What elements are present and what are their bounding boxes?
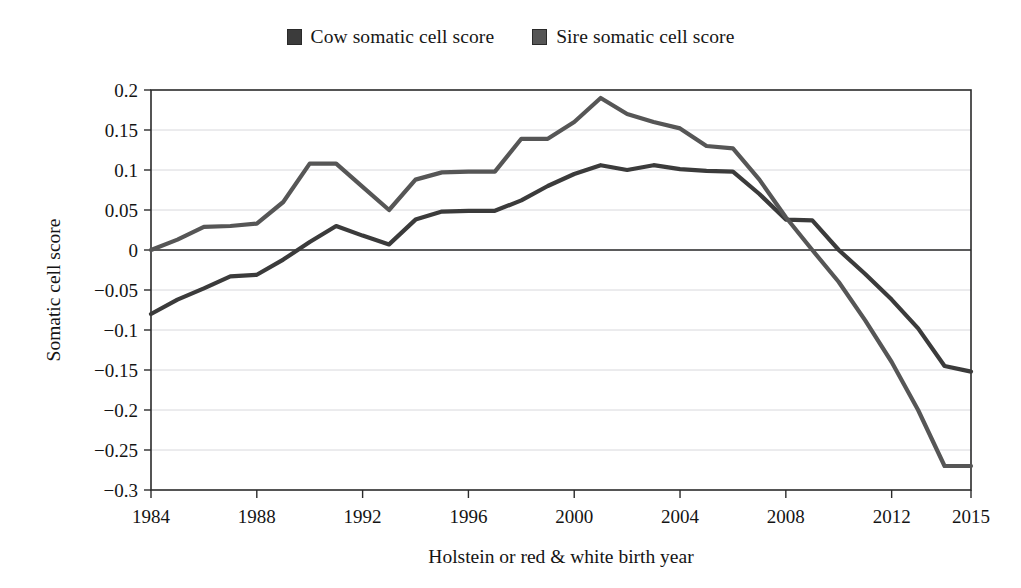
y-axis-tickmarks xyxy=(144,90,151,490)
x-tick-label: 2015 xyxy=(952,506,990,527)
line-chart: 0.20.150.10.050−0.05−0.1−0.15−0.2−0.25−0… xyxy=(0,0,1021,588)
x-axis-tick-labels: 198419881992199620002004200820122015 xyxy=(132,506,990,527)
x-tick-label: 2004 xyxy=(661,506,700,527)
x-tick-label: 1996 xyxy=(449,506,487,527)
series-line-sire xyxy=(151,98,971,466)
y-tick-label: 0.15 xyxy=(105,120,138,141)
y-tick-label: 0 xyxy=(129,240,139,261)
y-tick-label: 0.2 xyxy=(114,80,138,101)
y-axis-title: Somatic cell score xyxy=(43,219,64,362)
y-tick-label: 0.1 xyxy=(114,160,138,181)
series-line-cow xyxy=(151,165,971,371)
data-series xyxy=(151,98,971,466)
y-axis-tick-labels: 0.20.150.10.050−0.05−0.1−0.15−0.2−0.25−0… xyxy=(94,80,138,501)
figure-container: Cow somatic cell score Sire somatic cell… xyxy=(0,0,1021,588)
y-tick-label: −0.05 xyxy=(94,280,138,301)
y-tick-label: −0.15 xyxy=(94,360,138,381)
x-tick-label: 1992 xyxy=(344,506,382,527)
y-tick-label: −0.1 xyxy=(104,320,138,341)
y-tick-label: −0.25 xyxy=(94,440,138,461)
y-tick-label: −0.2 xyxy=(104,400,138,421)
y-tick-label: −0.3 xyxy=(104,480,138,501)
x-tick-label: 2012 xyxy=(873,506,911,527)
x-axis-tickmarks xyxy=(151,490,971,498)
y-tick-label: 0.05 xyxy=(105,200,138,221)
x-tick-label: 2008 xyxy=(767,506,805,527)
x-axis-title: Holstein or red & white birth year xyxy=(428,546,694,567)
x-tick-label: 2000 xyxy=(555,506,593,527)
x-tick-label: 1984 xyxy=(132,506,171,527)
x-tick-label: 1988 xyxy=(238,506,276,527)
